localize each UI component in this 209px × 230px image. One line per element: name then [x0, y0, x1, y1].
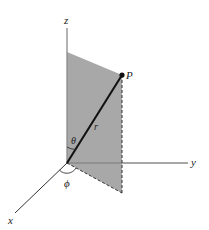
point-p [119, 72, 124, 77]
phi-label: ϕ [64, 177, 70, 189]
radius-label: r [94, 121, 98, 132]
z-axis-label: z [63, 14, 69, 26]
spherical-coordinates-diagram: z y x P r θ ϕ [0, 0, 209, 230]
x-axis-label: x [7, 214, 13, 226]
theta-label: θ [71, 135, 76, 146]
phi-arc [60, 168, 77, 173]
y-axis-label: y [190, 156, 196, 168]
x-axis [15, 163, 67, 213]
point-p-label: P [125, 69, 133, 81]
